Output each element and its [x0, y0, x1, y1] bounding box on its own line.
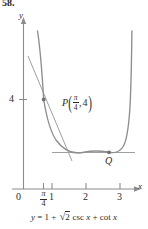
p-x-coordinate-fraction: π 4: [73, 94, 79, 111]
point-p-label: P ( π 4 , 4 ): [62, 94, 92, 111]
x-tick-label-3: 3: [117, 191, 122, 202]
plot-canvas: [0, 0, 148, 229]
point-q-marker: [107, 150, 111, 154]
function-curve: [38, 31, 132, 153]
p-x-numerator: π: [73, 94, 79, 102]
caption-plus-1: +: [51, 212, 56, 222]
x-axis-label: x: [138, 181, 142, 191]
pi-denominator: 4: [38, 200, 49, 208]
point-p-marker: [42, 98, 46, 102]
x-tick-label-pi-over-4: π 4: [38, 190, 49, 208]
pi-numerator: π: [38, 190, 49, 198]
p-y-coordinate: 4: [83, 97, 88, 108]
coordinate-comma: ,: [79, 97, 82, 108]
equation-caption: y = 1 + √2 csc x + cot x: [0, 211, 148, 222]
caption-cot: cot: [100, 212, 111, 222]
x-tick-label-1: 1: [49, 191, 54, 202]
caption-csc-var: x: [86, 212, 90, 222]
caption-lhs: y: [31, 212, 35, 222]
caption-cot-var: x: [113, 212, 117, 222]
x-tick-label-origin: 0: [16, 191, 21, 202]
y-tick-label-4: 4: [9, 93, 14, 104]
square-root-icon: √2: [59, 211, 71, 222]
p-x-denominator: 4: [73, 104, 79, 112]
y-axis-label: y: [19, 10, 23, 20]
x-tick-label-2: 2: [83, 191, 88, 202]
radicand: 2: [65, 211, 71, 222]
caption-plus-2: +: [92, 212, 97, 222]
caption-csc: csc: [72, 212, 84, 222]
caption-equals: =: [37, 212, 42, 222]
calculus-figure: 58. y x 4 0 π 4 1 2 3: [0, 0, 148, 229]
point-q-label: Q: [105, 155, 112, 166]
caption-constant: 1: [45, 212, 50, 222]
